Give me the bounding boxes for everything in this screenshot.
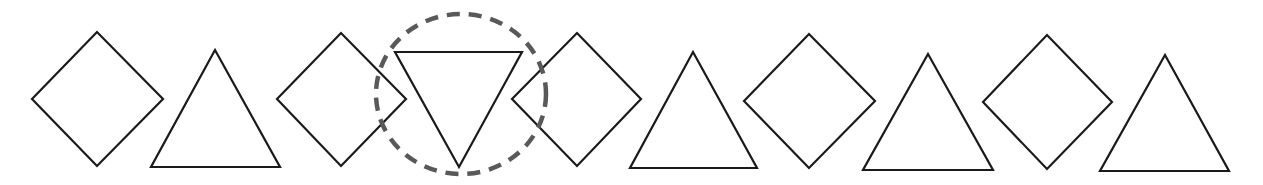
shape-sequence-diagram xyxy=(0,0,1263,185)
triangle-up-shape-2 xyxy=(151,50,280,167)
triangle-up-shape-10 xyxy=(1100,55,1229,171)
diamond-shape-1 xyxy=(32,32,163,166)
diamond-shape-9 xyxy=(983,35,1112,169)
triangle-up-shape-8 xyxy=(863,54,993,170)
diamond-shape-3 xyxy=(277,33,406,166)
diagram-canvas xyxy=(0,0,1263,185)
triangle-down-shape-4 xyxy=(395,52,522,167)
triangle-up-shape-6 xyxy=(630,52,757,168)
shapes-group xyxy=(32,32,1229,171)
diamond-shape-7 xyxy=(744,34,875,168)
